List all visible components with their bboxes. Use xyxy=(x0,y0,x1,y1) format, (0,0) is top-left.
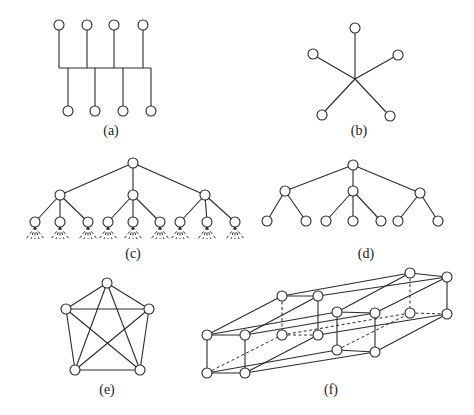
node-circle-icon xyxy=(350,23,360,33)
hidden-edge xyxy=(88,227,92,239)
node-circle-icon xyxy=(83,217,93,227)
edge xyxy=(353,165,420,193)
hidden-edge xyxy=(235,227,239,239)
hidden-edge xyxy=(99,227,108,239)
node-circle-icon xyxy=(82,20,92,30)
edge xyxy=(207,296,282,335)
node-circle-icon xyxy=(135,365,145,375)
node-circle-icon xyxy=(317,110,327,120)
node-circle-icon xyxy=(376,216,386,226)
node-circle-icon xyxy=(155,217,165,227)
edge xyxy=(325,79,355,111)
node-circle-icon xyxy=(405,268,415,278)
hidden-edge xyxy=(160,227,169,239)
hidden-edge xyxy=(88,227,97,239)
hidden-edge xyxy=(133,227,142,239)
hidden-edge xyxy=(180,227,184,239)
hidden-edge xyxy=(282,313,410,335)
network-topology-figure: (a) (b) (c) (d) (e) (f) xyxy=(0,0,474,415)
hidden-edge xyxy=(26,227,35,239)
node-circle-icon xyxy=(313,330,323,340)
hidden-edge xyxy=(104,227,108,239)
node-circle-icon xyxy=(175,217,185,227)
node-circle-icon xyxy=(393,216,403,226)
hidden-edge xyxy=(198,227,207,239)
node-circle-icon xyxy=(348,160,358,170)
node-circle-icon xyxy=(393,50,403,60)
hidden-edge xyxy=(176,227,180,239)
node-circle-icon xyxy=(321,216,331,226)
node-circle-icon xyxy=(103,217,113,227)
node-circle-icon xyxy=(128,190,138,200)
node-circle-icon xyxy=(202,330,212,340)
node-circle-icon xyxy=(385,111,395,121)
hidden-edge xyxy=(60,227,69,239)
node-circle-icon xyxy=(30,217,40,227)
node-circle-icon xyxy=(144,304,154,314)
hidden-edge xyxy=(151,227,160,239)
node-circle-icon xyxy=(128,217,138,227)
edge xyxy=(60,163,133,195)
node-circle-icon xyxy=(55,217,65,227)
hidden-edge xyxy=(226,227,235,239)
label-d: (d) xyxy=(358,246,375,262)
node-circle-icon xyxy=(405,308,415,318)
edge xyxy=(285,165,353,191)
node-circle-icon xyxy=(102,278,112,288)
hidden-edge xyxy=(207,227,211,239)
edge xyxy=(337,312,375,313)
node-circle-icon xyxy=(230,217,240,227)
hidden-edge xyxy=(160,227,164,239)
panel-d-tree-topology xyxy=(262,160,443,226)
edge xyxy=(282,273,410,296)
node-circle-icon xyxy=(313,291,323,301)
edge xyxy=(326,191,353,221)
node-circle-icon xyxy=(128,158,138,168)
hidden-edge xyxy=(171,227,180,239)
edge xyxy=(353,191,381,221)
panel-a-bus-topology xyxy=(54,20,156,116)
node-circle-icon xyxy=(370,308,380,318)
hidden-edge xyxy=(410,313,447,314)
hidden-edge xyxy=(31,227,35,239)
node-circle-icon xyxy=(308,49,318,59)
node-circle-icon xyxy=(202,368,212,378)
label-a: (a) xyxy=(103,123,119,139)
node-circle-icon xyxy=(415,188,425,198)
edge xyxy=(410,273,447,277)
node-circle-icon xyxy=(277,330,287,340)
hidden-edge xyxy=(337,313,410,350)
edge xyxy=(66,283,107,309)
edge xyxy=(133,195,160,222)
node-circle-icon xyxy=(348,216,358,226)
edge xyxy=(133,163,205,195)
node-circle-icon xyxy=(70,365,80,375)
edge xyxy=(355,57,394,79)
hidden-edge xyxy=(203,227,207,239)
node-circle-icon xyxy=(262,216,272,226)
panel-b-star-topology xyxy=(308,23,403,121)
node-circle-icon xyxy=(146,106,156,116)
hidden-edge xyxy=(133,227,137,239)
hidden-edge xyxy=(108,227,112,239)
node-circle-icon xyxy=(433,216,443,226)
node-circle-icon xyxy=(348,186,358,196)
node-circle-icon xyxy=(90,106,100,116)
node-circle-icon xyxy=(55,190,65,200)
node-circle-icon xyxy=(332,307,342,317)
node-circle-icon xyxy=(109,20,119,30)
node-circle-icon xyxy=(442,272,452,282)
label-f: (f) xyxy=(324,382,338,398)
panel-c-tree-topology xyxy=(26,158,244,239)
edge xyxy=(140,309,149,370)
edge xyxy=(317,57,355,79)
label-c: (c) xyxy=(125,246,141,262)
edge xyxy=(60,195,88,222)
hidden-edge xyxy=(60,227,64,239)
hidden-edge xyxy=(231,227,235,239)
node-circle-icon xyxy=(442,309,452,319)
node-circle-icon xyxy=(54,20,64,30)
node-circle-icon xyxy=(240,368,250,378)
node-circle-icon xyxy=(63,106,73,116)
hidden-edge xyxy=(56,227,60,239)
